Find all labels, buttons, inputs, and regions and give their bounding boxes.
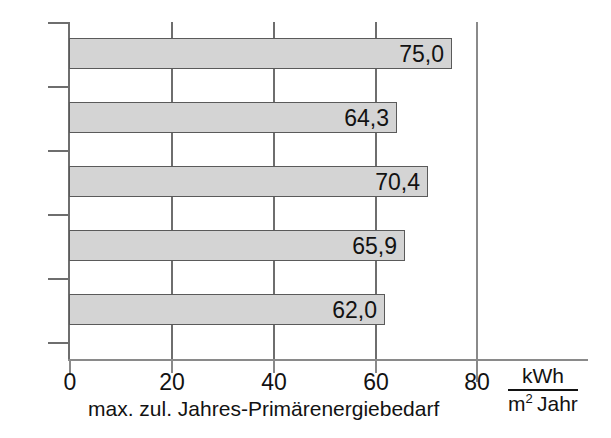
gridline-40-gap-3 <box>273 197 275 230</box>
x-tick-label-40: 40 <box>261 371 287 394</box>
y-tick-5 <box>48 342 69 344</box>
gridline-60-gap-4 <box>375 261 377 294</box>
gridline-40-gap-0 <box>273 22 275 38</box>
bar-value-2: 70,4 <box>375 170 420 193</box>
bar-value-3: 65,9 <box>352 234 397 257</box>
x-tick-label-0: 0 <box>64 371 77 394</box>
gridline-20-gap-4 <box>171 261 173 294</box>
gridline-60-gap-0 <box>375 22 377 38</box>
x-axis-line <box>68 359 588 361</box>
gridline-40-gap-5 <box>273 325 275 360</box>
gridline-40-gap-4 <box>273 261 275 294</box>
gridline-60-gap-2 <box>375 133 377 166</box>
gridline-20-gap-0 <box>171 22 173 38</box>
gridline-20-gap-1 <box>171 69 173 102</box>
x-tick-label-60: 60 <box>363 371 389 394</box>
plot-area: 75,0 64,3 70,4 65,9 62,0 0 20 40 60 80 m… <box>0 0 611 438</box>
bar-row-2: 70,4 <box>69 166 428 197</box>
reference-line-80 <box>476 22 478 382</box>
unit-denominator-exponent: 2 <box>526 391 533 406</box>
gridline-40-gap-1 <box>273 69 275 102</box>
bar-chart: 75,0 64,3 70,4 65,9 62,0 0 20 40 60 80 m… <box>0 0 611 438</box>
bar-value-4: 62,0 <box>332 298 377 321</box>
gridline-20-gap-2 <box>171 133 173 166</box>
bar-row-1: 64,3 <box>69 102 397 133</box>
bar-row-4: 62,0 <box>69 294 385 325</box>
x-tick-label-80: 80 <box>464 371 490 394</box>
gridline-20-gap-3 <box>171 197 173 230</box>
gridline-60-gap-5 <box>375 325 377 360</box>
gridline-20-gap-5 <box>171 325 173 360</box>
unit-label: kWh m2 Jahr <box>508 365 578 415</box>
y-tick-4 <box>48 278 69 280</box>
y-tick-1 <box>48 86 69 88</box>
y-tick-3 <box>48 214 69 216</box>
bar-row-0: 75,0 <box>69 38 452 69</box>
unit-denominator-base: m <box>508 392 526 415</box>
y-tick-2 <box>48 150 69 152</box>
unit-numerator: kWh <box>508 365 578 391</box>
bar-row-3: 65,9 <box>69 230 405 261</box>
y-tick-0 <box>48 22 69 24</box>
gridline-40-gap-2 <box>273 133 275 166</box>
unit-denominator: m2 Jahr <box>508 391 578 416</box>
x-tick-label-20: 20 <box>159 371 185 394</box>
bar-value-0: 75,0 <box>399 42 444 65</box>
x-axis-title: max. zul. Jahres-Primärenergiebedarf <box>88 398 439 419</box>
gridline-60-gap-1 <box>375 69 377 102</box>
bar-value-1: 64,3 <box>344 106 389 129</box>
gridline-60-gap-3 <box>375 197 377 230</box>
unit-denominator-rest: Jahr <box>537 392 578 415</box>
